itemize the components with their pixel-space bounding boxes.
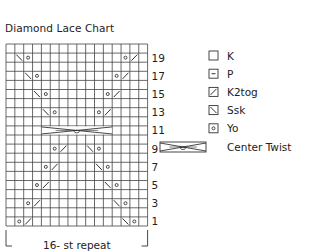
ssk-icon [25, 73, 31, 79]
ssk-icon [114, 200, 120, 206]
yo-icon [124, 56, 127, 59]
yo-icon [44, 165, 47, 168]
legend-item-k: K [209, 50, 235, 62]
ssk-icon [96, 164, 102, 170]
row-number: 17 [152, 70, 165, 82]
knitting-chart: 19171513119753116- st repeatKPK2togSskYo… [0, 0, 309, 251]
yo-icon [53, 111, 56, 114]
row-number: 11 [152, 124, 165, 136]
k2tog-icon [61, 146, 67, 152]
legend-label: K [227, 50, 235, 62]
row-number: 13 [152, 106, 165, 118]
yo-icon [35, 74, 38, 77]
yo-icon [106, 93, 109, 96]
legend-label: Center Twist [227, 141, 291, 153]
legend-label: Yo [226, 122, 238, 134]
legend-item-ssk: Ssk [209, 104, 246, 116]
k2tog-icon [43, 182, 49, 188]
k2tog-icon [123, 73, 129, 79]
ssk-icon [34, 91, 40, 97]
yo-icon [106, 165, 109, 168]
k2tog-icon [131, 55, 137, 61]
ssk-icon [43, 109, 49, 115]
legend-label: P [227, 68, 233, 80]
yo-icon [53, 147, 56, 150]
chart-grid [6, 44, 148, 226]
yo-icon [27, 56, 30, 59]
yo-icon [115, 184, 118, 187]
ssk-icon [105, 182, 111, 188]
k2tog-icon [105, 109, 111, 115]
yo-icon [133, 220, 136, 223]
yo-icon [27, 202, 30, 205]
yo-icon [97, 111, 100, 114]
yo-icon [124, 202, 127, 205]
legend-item-center-twist: Center Twist [160, 141, 291, 153]
k2tog-icon [52, 164, 58, 170]
legend-item-p: P [209, 68, 233, 80]
yo-icon [35, 184, 38, 187]
legend: KPK2togSskYoCenter Twist [160, 50, 291, 153]
row-number: 15 [152, 88, 165, 100]
row-number: 19 [152, 52, 165, 64]
yo-icon [18, 220, 21, 223]
ssk-icon [16, 55, 22, 61]
k2tog-icon [114, 91, 120, 97]
legend-item-k2tog: K2tog [209, 86, 258, 98]
k2tog-icon [25, 218, 31, 224]
legend-label: Ssk [227, 104, 246, 116]
legend-item-yo: Yo [209, 122, 238, 134]
ssk-icon [123, 218, 129, 224]
legend-label: K2tog [227, 86, 258, 98]
repeat-label: 16- st repeat [43, 239, 111, 251]
row-number: 7 [152, 161, 159, 173]
row-number: 5 [152, 179, 159, 191]
yo-icon [115, 74, 118, 77]
yo-icon [97, 147, 100, 150]
row-number: 9 [152, 143, 159, 155]
row-number: 3 [152, 197, 159, 209]
yo-icon [44, 93, 47, 96]
ssk-icon [87, 146, 93, 152]
row-number: 1 [152, 215, 159, 227]
k2tog-icon [34, 200, 40, 206]
